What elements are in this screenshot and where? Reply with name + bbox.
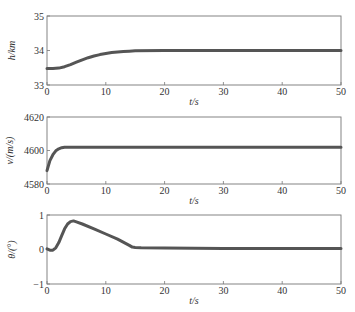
figure: 01020304050333435t/sh/km0102030405045804… [0,0,355,312]
velocity-plot-frame [47,117,341,184]
x-tick-label: 10 [101,86,111,97]
y-axis-label: h/km [6,41,17,60]
y-tick-label: 4580 [24,179,44,190]
y-tick-label: 35 [34,11,44,22]
pitch-curve [47,221,341,250]
x-tick-label: 0 [45,86,50,97]
y-tick-label: 4620 [24,112,44,123]
x-tick-label: 0 [45,185,50,196]
y-tick-label: 4600 [24,145,44,156]
y-tick-label: 33 [34,80,44,91]
x-tick-label: 50 [336,285,346,296]
x-axis-label: t/s [189,295,199,306]
altitude-curve [47,51,341,69]
x-tick-label: 0 [45,285,50,296]
x-tick-label: 40 [277,185,287,196]
x-tick-label: 30 [218,86,228,97]
y-tick-label: 34 [34,45,44,56]
x-tick-label: 30 [218,185,228,196]
x-axis-label: t/s [189,96,199,107]
x-tick-label: 30 [218,285,228,296]
y-tick-label: 1 [39,210,44,221]
x-tick-label: 10 [101,185,111,196]
x-tick-label: 20 [160,285,170,296]
altitude-panel: 01020304050333435t/sh/km [6,11,346,108]
x-tick-label: 50 [336,185,346,196]
pitch-panel: 01020304050−101t/sθ/(°) [6,210,346,307]
x-tick-label: 20 [160,185,170,196]
x-tick-label: 20 [160,86,170,97]
y-axis-label: θ/(°) [6,240,18,259]
y-axis-label: v/(m/s) [4,136,16,164]
velocity-curve [47,147,341,170]
x-tick-label: 50 [336,86,346,97]
y-tick-label: −1 [33,279,44,290]
x-tick-label: 40 [277,86,287,97]
x-axis-label: t/s [189,195,199,206]
x-tick-label: 10 [101,285,111,296]
x-tick-label: 40 [277,285,287,296]
y-tick-label: 0 [39,244,44,255]
velocity-panel: 01020304050458046004620t/sv/(m/s) [4,112,346,207]
